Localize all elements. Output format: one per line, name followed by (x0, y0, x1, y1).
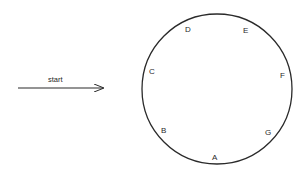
node-label-a: A (212, 153, 218, 162)
state-circle (142, 14, 292, 164)
node-label-e: E (243, 26, 248, 35)
node-label-b: B (161, 126, 166, 135)
node-label-d: D (185, 25, 191, 34)
node-label-c: C (149, 67, 155, 76)
diagram-canvas: start A B C D E F G (0, 0, 305, 174)
start-label: start (48, 75, 64, 84)
node-label-g: G (265, 128, 271, 137)
node-label-f: F (280, 71, 285, 80)
